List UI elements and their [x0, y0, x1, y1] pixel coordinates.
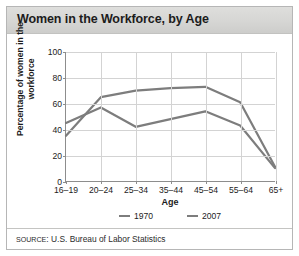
x-axis-title: Age [65, 197, 275, 207]
y-tick-label: 80 [52, 73, 62, 83]
page-title: Women in the Workforce, by Age [17, 12, 209, 26]
gridline-vertical [136, 52, 137, 181]
x-tick-mark [171, 181, 172, 184]
x-tick-label: 35–44 [159, 185, 183, 195]
y-tick-label: 20 [52, 151, 62, 161]
y-tick-mark [63, 104, 66, 105]
x-tick-label: 45–54 [194, 185, 218, 195]
source-divider [7, 228, 292, 229]
x-tick-mark [136, 181, 137, 184]
y-tick-label: 40 [52, 125, 62, 135]
plot-area: Percentage of women in the workforce 020… [7, 34, 294, 250]
legend-swatch-icon [187, 215, 198, 218]
legend-swatch-icon [119, 215, 130, 218]
source-text: : U.S. Bureau of Labor Statistics [46, 234, 165, 244]
x-tick-mark [276, 181, 277, 184]
chart-legend: 19702007 [65, 211, 275, 221]
legend-label: 2007 [202, 211, 221, 221]
y-tick-mark [63, 130, 66, 131]
x-tick-mark [101, 181, 102, 184]
x-tick-label: 16–19 [54, 185, 78, 195]
y-tick-mark [63, 52, 66, 53]
y-axis-title: Percentage of women in the workforce [15, 14, 41, 144]
x-tick-label: 65+ [269, 185, 284, 195]
x-tick-label: 55–64 [229, 185, 253, 195]
chart-figure: Women in the Workforce, by Age Percentag… [0, 0, 299, 256]
y-tick-label: 100 [48, 47, 62, 57]
gridline-vertical [206, 52, 207, 181]
legend-label: 1970 [134, 211, 153, 221]
figure-frame: Women in the Workforce, by Age Percentag… [6, 6, 293, 250]
gridline-vertical [276, 52, 277, 181]
gridline-vertical [101, 52, 102, 181]
x-tick-mark [206, 181, 207, 184]
x-tick-mark [66, 181, 67, 184]
gridline-vertical [171, 52, 172, 181]
x-tick-label: 20–24 [89, 185, 113, 195]
gridline-vertical [241, 52, 242, 181]
legend-item-2007[interactable]: 2007 [187, 211, 221, 221]
y-tick-label: 60 [52, 99, 62, 109]
source-note: SOURCE: U.S. Bureau of Labor Statistics [16, 234, 166, 244]
y-tick-mark [63, 78, 66, 79]
x-tick-label: 25–34 [124, 185, 148, 195]
y-tick-mark [63, 156, 66, 157]
x-tick-mark [241, 181, 242, 184]
plot-grid: 02040608010016–1920–2425–3435–4445–5455–… [65, 52, 275, 182]
source-prefix: SOURCE [16, 236, 46, 244]
title-band: Women in the Workforce, by Age [7, 7, 292, 34]
legend-item-1970[interactable]: 1970 [119, 211, 153, 221]
